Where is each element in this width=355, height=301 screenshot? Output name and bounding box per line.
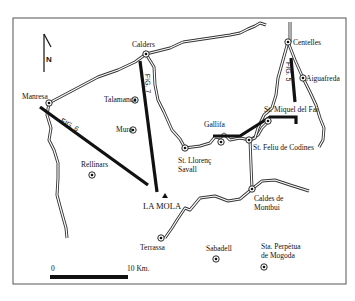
scale-start-label: 0 — [51, 264, 55, 273]
fig-5-label: FIG. 5 — [285, 62, 292, 82]
scale-bar: 0 10 Km. — [50, 264, 150, 279]
caldes-label-line1: Caldes de — [254, 194, 284, 203]
town-calders — [143, 51, 149, 57]
caldes-label-line2: Montbui — [254, 203, 280, 212]
sta-perpetua-label-line2: de Mogoda — [261, 251, 296, 260]
terrassa-label: Terrassa — [140, 243, 166, 252]
town-caldes — [249, 186, 255, 192]
town-rellinars — [89, 172, 95, 178]
sabadell-label: Sabadell — [206, 244, 232, 253]
st-llorenc-label-line2: Savall — [178, 165, 197, 174]
scale-bar-rect — [50, 275, 128, 279]
town-sta-perpetua — [261, 264, 267, 270]
roads — [47, 22, 324, 238]
rellinars-label: Rellinars — [81, 160, 108, 169]
gallifa-label: Gallifa — [204, 120, 225, 129]
town-markers — [46, 39, 306, 270]
summit-triangle-icon — [162, 193, 168, 198]
aiguafreda-label: Aiguafreda — [306, 74, 340, 83]
st-feliu-label: St. Feliu de Codines — [253, 143, 314, 152]
town-st-miquel — [265, 118, 271, 124]
town-sabadell — [213, 256, 219, 262]
fig-7-label: FIG. 7 — [144, 74, 152, 94]
town-st-llorenc — [182, 145, 188, 151]
north-label: N — [46, 55, 52, 64]
sta-perpetua-label-line1: Sta. Perpètua — [261, 242, 301, 251]
st-miquel-label: St. Miquel del Fai — [264, 105, 318, 114]
talamanca-label: Talamanca — [104, 95, 137, 104]
town-st-feliu — [246, 137, 252, 143]
town-centelles — [285, 39, 291, 45]
scale-end-label: 10 Km. — [127, 264, 150, 273]
calders-label: Calders — [132, 40, 155, 49]
town-terrassa — [158, 235, 164, 241]
centelles-label: Centelles — [293, 38, 321, 47]
manresa-label: Manresa — [22, 92, 48, 101]
town-gallifa — [218, 139, 224, 145]
mura-label: Mura — [116, 125, 133, 134]
st-llorenc-label-line1: St. Llorenç — [178, 156, 212, 165]
map: N — [0, 0, 355, 301]
north-arrow-icon: N — [44, 34, 52, 72]
la-mola-label: LA MOLA — [143, 201, 182, 211]
fig-5-transect-line — [213, 117, 296, 136]
